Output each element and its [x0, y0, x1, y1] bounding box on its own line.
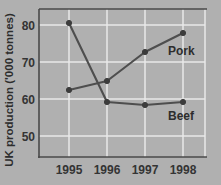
pork-point-1995	[66, 87, 71, 92]
beef-point-1995	[66, 20, 71, 25]
line-chart: 80 70 60 50 1995 1996 1997 1998 UK produ…	[0, 0, 221, 185]
x-tick-1995: 1995	[56, 163, 83, 177]
pork-point-1996	[104, 78, 109, 83]
chart-canvas: 80 70 60 50 1995 1996 1997 1998 UK produ…	[0, 0, 221, 185]
pork-point-1998	[180, 30, 185, 35]
beef-series-label: Beef	[168, 109, 195, 123]
beef-point-1997	[142, 102, 147, 107]
pork-point-1997	[142, 49, 147, 54]
pork-series-label: Pork	[168, 44, 195, 58]
y-tick-60: 60	[22, 93, 36, 107]
y-tick-50: 50	[22, 130, 36, 144]
y-tick-80: 80	[22, 19, 36, 33]
x-tick-1996: 1996	[94, 163, 121, 177]
x-tick-1997: 1997	[132, 163, 159, 177]
y-axis-title: UK production ('000 tonnes)	[3, 13, 15, 167]
y-tick-70: 70	[22, 56, 36, 70]
beef-point-1996	[104, 99, 109, 104]
x-tick-1998: 1998	[170, 163, 197, 177]
beef-point-1998	[180, 99, 185, 104]
